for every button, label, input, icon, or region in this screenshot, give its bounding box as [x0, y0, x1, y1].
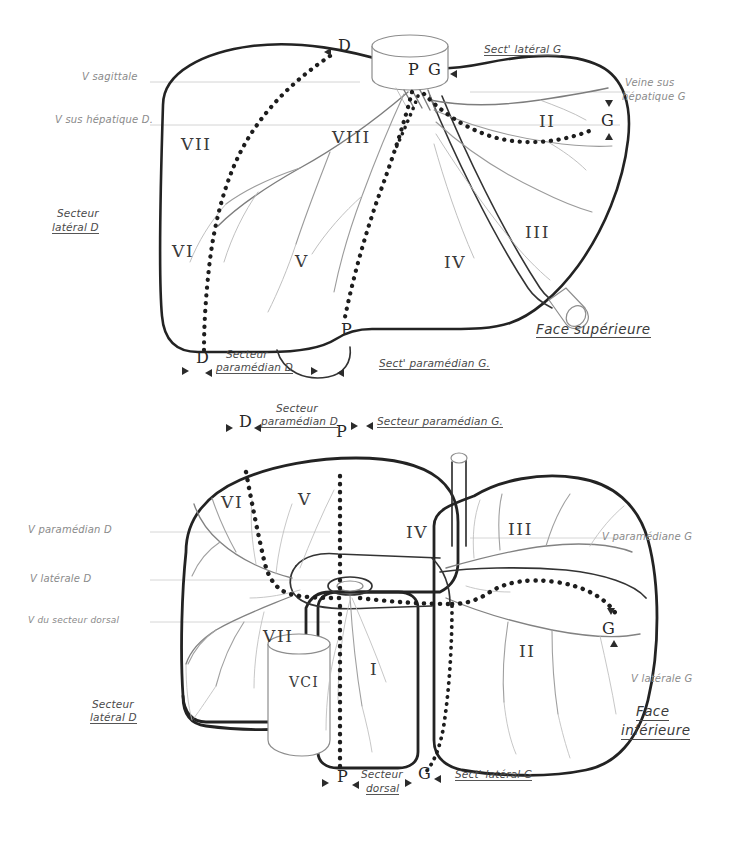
- marker-g-right-inferior: G: [602, 621, 615, 638]
- marker-d-top-superior: D: [338, 38, 351, 55]
- marker-p-top-inferior: P: [336, 424, 347, 441]
- arrow-right-icon-d-top-inferior: [226, 424, 233, 432]
- caption-face-inferieure-line2: inférieure: [621, 723, 690, 740]
- label-secteur-paramedian-d-superior-line2: paramédian D: [216, 362, 293, 374]
- label-v-du-secteur-dorsal: V du secteur dorsal: [28, 616, 119, 625]
- caption-face-inferieure-text1: Face: [636, 704, 669, 721]
- segment-label-vi-inferior: VI: [221, 494, 243, 512]
- segment-label-vii-superior: VII: [181, 136, 212, 154]
- arrow-left-icon-paramedian-g: [337, 369, 344, 377]
- arrow-left-icon-d-bottom: [205, 369, 212, 377]
- label-secteur-paramedian-d-superior-line1: Secteur: [226, 349, 268, 360]
- marker-d-bottom-superior: D: [196, 350, 209, 367]
- label-sect-lateral-g-superior: Sect' latéral G: [484, 44, 561, 56]
- arrow-down-icon-g-right-inferior: [607, 608, 615, 615]
- segment-label-viii-superior: VIII: [332, 129, 371, 147]
- marker-p-bottom-superior: P: [341, 322, 352, 339]
- segment-label-iv-superior: IV: [444, 254, 466, 272]
- label-v-sus-hepatique-d: V sus hépatique D.: [55, 115, 153, 126]
- figure-face-superieure: .outline { fill:none; stroke:#232323; st…: [0, 0, 739, 408]
- marker-g-bottom-inferior: G: [418, 766, 431, 783]
- caption-face-inferieure-line1: Face: [636, 704, 669, 721]
- label-v-paramediane-g: V paramédiane G: [602, 532, 692, 543]
- label-secteur-lateral-d-inferior-line2: latéral D: [90, 712, 137, 724]
- arrow-right-icon-p-top-inferior: [351, 422, 358, 430]
- segment-label-v-superior: V: [295, 253, 309, 271]
- arrow-down-icon-g-right: [605, 100, 613, 107]
- arrow-left-icon-g-hilum: [450, 70, 457, 78]
- anatomical-plate: .outline { fill:none; stroke:#232323; st…: [0, 0, 739, 846]
- label-secteur-paramedian-d-inferior-line1: Secteur: [276, 403, 318, 414]
- marker-p-hilum-superior: P: [408, 62, 419, 79]
- arrow-up-icon-g-right-inferior: [610, 640, 618, 647]
- label-v-laterale-d: V latérale D: [30, 574, 91, 585]
- label-secteur-paramedian-d-inferior-line2: paramédian D: [261, 416, 338, 428]
- arrow-left-icon-dorsal-left: [352, 781, 359, 789]
- label-secteur-dorsal-line2: dorsal: [366, 783, 399, 795]
- segment-label-i-inferior: I: [370, 661, 378, 679]
- label-secteur-lateral-d-superior-line1: Secteur: [57, 208, 99, 219]
- superior-liver-drawing: .outline { fill:none; stroke:#232323; st…: [0, 0, 739, 408]
- segment-label-iii-inferior: III: [508, 521, 533, 539]
- arrow-right-icon-p-bottom-inferior: [322, 779, 329, 787]
- arrow-left-icon-d-top-inferior: [254, 424, 261, 432]
- label-v-paramedian-d: V paramédian D: [28, 525, 112, 536]
- marker-p-bottom-inferior: P: [337, 769, 348, 786]
- arrow-left-icon-p-top-inferior: [366, 422, 373, 430]
- arrow-right-icon-dorsal-right: [405, 779, 412, 787]
- marker-g-right-superior: G: [601, 113, 614, 130]
- label-veine-sus-hepatique-g-line2: hépatique G: [622, 92, 686, 103]
- label-v-sagittale: V sagittale: [82, 72, 138, 83]
- figure-face-inferieure: .o2 { fill:none; stroke:#232323; stroke-…: [0, 400, 739, 846]
- segment-label-iv-inferior: IV: [406, 524, 428, 542]
- segment-label-vi-superior: VI: [172, 243, 194, 261]
- label-secteur-lateral-d-inferior-line1: Secteur: [92, 699, 134, 710]
- label-secteur-dorsal-line1: Secteur: [361, 769, 403, 780]
- label-sect-lateral-g-inferior: Sect' latéral G: [455, 769, 532, 781]
- segment-label-iii-superior: III: [525, 224, 550, 242]
- arrow-right-icon-d-bottom: [182, 367, 189, 375]
- caption-face-superieure: Face supérieure: [536, 322, 651, 338]
- label-secteur-paramedian-g-inferior: Secteur paramédian G.: [377, 416, 503, 428]
- caption-face-superieure-text: Face supérieure: [536, 322, 651, 338]
- arrow-left-icon-lateral-g-inferior: [434, 775, 441, 783]
- segment-label-ii-inferior: II: [519, 643, 536, 661]
- arrow-right-icon-paramedian-d: [311, 367, 318, 375]
- marker-g-hilum-superior: G: [428, 62, 441, 79]
- arrow-left-icon-d-top: [324, 48, 331, 56]
- arrow-up-icon-g-right: [605, 133, 613, 140]
- label-v-laterale-g: V latérale G: [631, 674, 693, 685]
- marker-d-top-inferior: D: [239, 414, 252, 431]
- segment-label-vci-inferior: VCI: [289, 675, 319, 690]
- segment-label-v-inferior: V: [298, 491, 312, 509]
- segment-label-vii-inferior: VII: [263, 628, 294, 646]
- segment-label-ii-superior: II: [539, 113, 556, 131]
- label-secteur-lateral-d-superior-line2: latéral D: [52, 222, 99, 234]
- label-sect-paramedian-g-superior: Sect' paramédian G.: [379, 358, 490, 370]
- caption-face-inferieure-text2: inférieure: [621, 723, 690, 740]
- label-veine-sus-hepatique-g-line1: Veine sus: [625, 78, 674, 89]
